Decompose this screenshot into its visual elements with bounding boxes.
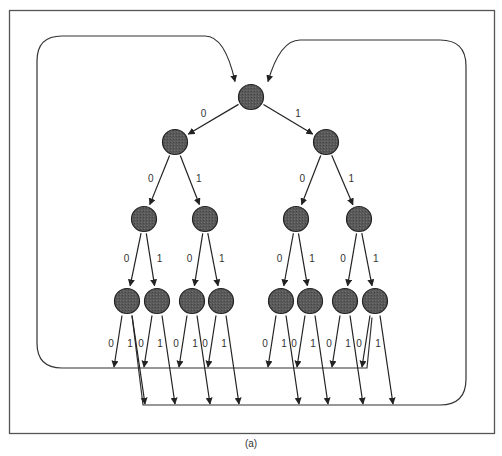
edge-0 [348, 233, 357, 285]
edge-label-0: 0 [277, 253, 283, 264]
edge-1 [146, 233, 154, 285]
tree-node-n0110 [333, 289, 358, 314]
output-label-0: 0 [173, 338, 179, 349]
output-label-1: 1 [310, 338, 316, 349]
edge-1 [298, 233, 307, 285]
edge-label-1: 1 [309, 253, 315, 264]
output-label-0: 0 [202, 338, 208, 349]
binary-tree-feedback-diagram: 010101010101010101010101010101 [0, 0, 502, 456]
edge-label-0: 0 [124, 253, 130, 264]
output-edge-0 [114, 316, 122, 368]
output-label-0: 0 [326, 338, 332, 349]
tree-node-n0 [239, 85, 264, 110]
output-edge-0 [332, 316, 340, 368]
tree-node-n000 [132, 207, 157, 232]
tree-nodes [115, 85, 388, 314]
output-edge-0 [208, 316, 216, 368]
figure-caption: (a) [0, 438, 502, 449]
output-label-0: 0 [356, 338, 362, 349]
output-label-1: 1 [375, 338, 381, 349]
edge-label-1: 1 [219, 253, 225, 264]
figure-frame [10, 11, 495, 434]
edge-label-1: 1 [196, 173, 202, 184]
output-label-0: 0 [262, 338, 268, 349]
output-label-1: 1 [281, 338, 287, 349]
tree-node-n001 [193, 207, 218, 232]
edge-label-0: 0 [340, 253, 346, 264]
output-edge-1 [350, 316, 363, 405]
output-label-1: 1 [127, 338, 133, 349]
output-label-1: 1 [157, 338, 163, 349]
output-edge-1 [162, 316, 175, 405]
output-edge-1 [380, 316, 393, 405]
edge-label-0: 0 [148, 173, 154, 184]
output-edge-1 [286, 316, 299, 405]
output-edge-1 [226, 316, 239, 405]
output-edge-1 [315, 316, 328, 405]
output-label-1: 1 [345, 338, 351, 349]
tree-node-n00 [163, 130, 188, 155]
output-edge-0 [144, 316, 152, 368]
edge-label-0: 0 [201, 108, 207, 119]
output-label-0: 0 [291, 338, 297, 349]
edge-label-1: 1 [373, 253, 379, 264]
tree-node-n0111 [363, 289, 388, 314]
edge-1 [263, 104, 312, 134]
edge-label-1: 1 [157, 253, 163, 264]
output-edge-0 [297, 316, 305, 368]
output-label-1: 1 [221, 338, 227, 349]
output-label-1: 1 [192, 338, 198, 349]
output-edge-0 [268, 316, 276, 368]
edge-0 [194, 233, 202, 285]
edge-1 [362, 233, 372, 286]
edge-0 [130, 233, 141, 286]
output-edge-0 [362, 316, 370, 368]
tree-node-n0000 [115, 289, 140, 314]
tree-node-n0011 [209, 289, 234, 314]
tree-node-n0010 [180, 289, 205, 314]
edge-1 [208, 233, 218, 286]
tree-node-n01 [314, 130, 339, 155]
output-label-0: 0 [138, 338, 144, 349]
tree-node-n010 [284, 207, 309, 232]
output-label-0: 0 [108, 338, 114, 349]
edge-0 [188, 104, 238, 134]
edge-label-1: 1 [349, 173, 355, 184]
zero-feedback-loop [37, 36, 372, 368]
tree-node-n0001 [145, 289, 170, 314]
edge-label-0: 0 [187, 253, 193, 264]
tree-node-n0101 [298, 289, 323, 314]
output-edge-1 [132, 316, 145, 405]
tree-node-n011 [347, 207, 372, 232]
edge-label-1: 1 [295, 108, 301, 119]
edge-0 [284, 233, 294, 285]
edge-label-0: 0 [299, 173, 305, 184]
output-edge-1 [197, 316, 210, 405]
tree-node-n0100 [269, 289, 294, 314]
output-edge-0 [179, 316, 187, 368]
